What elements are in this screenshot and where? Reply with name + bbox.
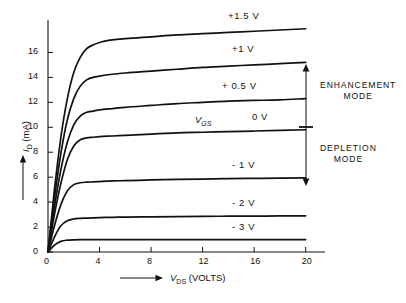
x-tick-label: 16 — [250, 256, 260, 266]
curve-label-0: +1.5 V — [228, 10, 259, 21]
depletion-mode-line2: MODE — [320, 154, 377, 165]
curve-vgs-neg3 — [48, 240, 306, 252]
y-tick-label: 0 — [33, 246, 38, 256]
y-axis-subscript: D — [26, 144, 33, 149]
y-tick-label: 2 — [33, 221, 38, 231]
y-axis-symbol: I — [20, 149, 31, 152]
x-axis-label-arrow — [120, 275, 163, 281]
y-tick-label: 6 — [33, 171, 38, 181]
y-tick-label: 12 — [28, 96, 38, 106]
vgs-parameter-label: VGS — [195, 114, 211, 127]
x-tick-label: 4 — [96, 256, 101, 266]
depletion-mode-line1: DEPLETION — [320, 143, 377, 154]
x-tick-label: 0 — [44, 256, 49, 266]
curve-label-4: - 1 V — [232, 159, 255, 170]
y-tick-label: 4 — [33, 196, 38, 206]
mode-bracket — [299, 64, 313, 186]
curve-label-1: +1 V — [232, 43, 254, 54]
curve-vgs-0 — [48, 130, 306, 252]
curve-family — [48, 29, 306, 252]
y-tick-label: 10 — [28, 121, 38, 131]
depletion-mode-label: DEPLETION MODE — [320, 143, 377, 165]
x-tick-label: 20 — [302, 256, 312, 266]
x-axis-unit: (VOLTS) — [189, 272, 226, 283]
x-axis-ticks — [48, 247, 306, 252]
enhancement-mode-line2: MODE — [320, 91, 396, 102]
y-tick-label: 16 — [28, 46, 38, 56]
mosfet-drain-characteristics-chart: ID (mA) VDS (VOLTS) VGS ENHANCEMENT MODE… — [0, 0, 406, 303]
y-tick-label: 14 — [28, 71, 38, 81]
curve-label-3: 0 V — [252, 111, 268, 122]
curve-label-6: - 3 V — [232, 221, 255, 232]
curve-label-5: - 2 V — [232, 197, 255, 208]
x-tick-label: 8 — [147, 256, 152, 266]
enhancement-mode-line1: ENHANCEMENT — [320, 80, 396, 91]
x-axis-subscript: DS — [176, 278, 186, 285]
y-tick-label: 8 — [33, 146, 38, 156]
curve-label-2: + 0.5 V — [222, 80, 257, 91]
x-tick-label: 12 — [199, 256, 209, 266]
x-axis-title: VDS (VOLTS) — [170, 272, 226, 285]
curve-vgs-1 — [48, 62, 306, 252]
curve-vgs-neg2 — [48, 216, 306, 252]
vgs-subscript: GS — [201, 120, 211, 127]
enhancement-mode-label: ENHANCEMENT MODE — [320, 80, 396, 102]
mode-bracket-arrow-up — [303, 64, 310, 72]
curve-vgs-neg1 — [48, 178, 306, 252]
y-axis-label-arrow — [20, 155, 26, 200]
mode-bracket-arrow-down — [303, 179, 310, 187]
